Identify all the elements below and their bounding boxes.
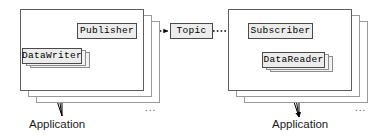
left-stack-ellipsis: ... — [145, 102, 156, 113]
diagram-canvas: Publisher DataWriter Topic Subscriber Da… — [0, 0, 387, 138]
node-datawriter[interactable]: DataWriter — [22, 48, 82, 64]
right-stack-ellipsis: ... — [355, 102, 366, 113]
node-subscriber[interactable]: Subscriber — [248, 23, 313, 39]
right-application-label: Application — [272, 118, 328, 130]
right-application-container-front — [228, 9, 352, 91]
left-application-label: Application — [29, 118, 85, 130]
node-topic[interactable]: Topic — [170, 23, 213, 39]
node-publisher[interactable]: Publisher — [77, 23, 137, 39]
node-datareader[interactable]: DataReader — [262, 52, 325, 68]
